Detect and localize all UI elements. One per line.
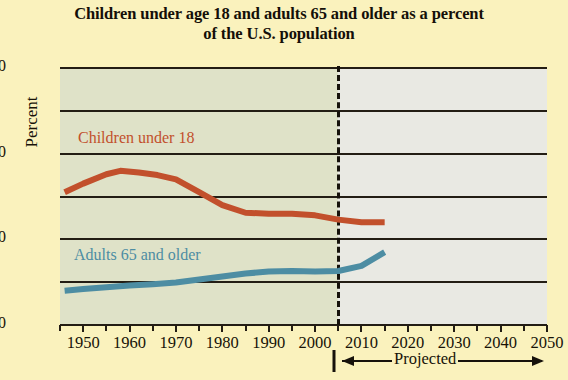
- x-tick-minor-2005: [337, 325, 339, 331]
- y-tick-label-60: 60: [0, 57, 6, 75]
- x-tick-2020: [407, 325, 409, 332]
- series-label-adults: Adults 65 and older: [74, 246, 201, 264]
- x-tick-minor-1955: [105, 325, 107, 331]
- x-tick-minor-2045: [523, 325, 525, 331]
- x-tick-minor-1985: [245, 325, 247, 331]
- x-tick-2050: [546, 325, 548, 332]
- x-tick-minor-1995: [291, 325, 293, 331]
- x-tick-2000: [314, 325, 316, 332]
- plot-area: [60, 68, 547, 325]
- x-tick-minor-2025: [430, 325, 432, 331]
- x-tick-2010: [360, 325, 362, 332]
- x-tick-2040: [500, 325, 502, 332]
- y-axis-title: Percent: [22, 62, 42, 182]
- y-tick-label-40: 40: [0, 143, 6, 161]
- projected-label: Projected: [392, 349, 458, 369]
- x-tick-1950: [82, 325, 84, 332]
- y-tick-label-20: 20: [0, 228, 6, 246]
- x-tick-1960: [129, 325, 131, 332]
- series-lines: [60, 68, 547, 325]
- x-tick-minor-2015: [384, 325, 386, 331]
- x-tick-2030: [453, 325, 455, 332]
- x-tick-1970: [175, 325, 177, 332]
- x-tick-1980: [221, 325, 223, 332]
- x-tick-minor-1945: [59, 325, 61, 331]
- x-tick-1990: [268, 325, 270, 332]
- series-label-children: Children under 18: [78, 129, 194, 147]
- chart-title: Children under age 18 and adults 65 and …: [14, 4, 544, 44]
- series-line-children: [65, 171, 385, 222]
- chart-title-line-2: of the U.S. population: [14, 24, 544, 44]
- x-tick-minor-2035: [476, 325, 478, 331]
- x-tick-minor-1975: [198, 325, 200, 331]
- projected-annotation: Projected: [330, 348, 552, 374]
- chart-title-line-1: Children under age 18 and adults 65 and …: [74, 4, 484, 23]
- y-tick-label-0: 0: [0, 314, 6, 332]
- x-tick-minor-1965: [152, 325, 154, 331]
